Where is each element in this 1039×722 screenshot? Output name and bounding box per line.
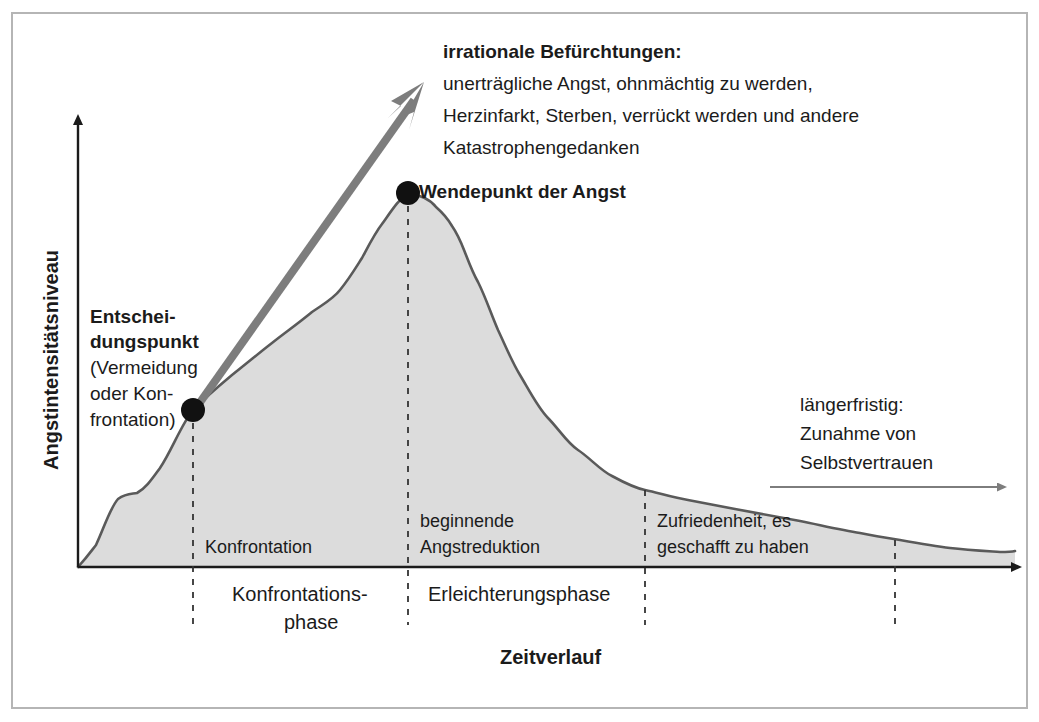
turning-point-marker [396,181,420,205]
turning-point-label: Wendepunkt der Angst [419,180,626,205]
phase-label-zufriedenheit-line-1: Zufriedenheit, es [657,510,791,533]
decision-point-marker [181,398,205,422]
phase-label-beginnende-line-2: Angstreduktion [420,536,540,559]
irrational-fears-line-1: unerträgliche Angst, ohnmächtig zu werde… [443,72,813,97]
longterm-label-line-3: Selbstvertrauen [800,451,933,476]
decision-point-line-3: (Vermeidung [90,356,198,381]
x-axis-label: Zeitverlauf [500,644,601,670]
longterm-label-line-2: Zunahme von [800,422,916,447]
phase-name-konfrontationsphase-line-2: phase [284,609,339,635]
decision-point-line-4: oder Kon- [90,382,173,407]
phase-name-konfrontationsphase-line-1: Konfrontations- [232,581,368,607]
phase-label-beginnende-line-1: beginnende [420,510,514,533]
irrational-fears-line-2: Herzinfarkt, Sterben, verrückt werden un… [443,104,859,129]
longterm-label-line-1: längerfristig: [800,393,904,418]
decision-point-line-2: dungspunkt [90,330,199,355]
phase-name-erleichterungsphase: Erleichterungsphase [428,581,610,607]
y-axis-label: Angstintensitätsniveau [40,250,63,470]
irrational-fears-title: irrationale Befürchtungen: [443,40,682,65]
decision-point-line-5: frontation) [90,408,176,433]
decision-point-line-1: Entschei- [90,305,176,330]
phase-label-zufriedenheit-line-2: geschafft zu haben [657,536,809,559]
irrational-fears-line-3: Katastrophengedanken [443,136,640,161]
phase-label-konfrontation: Konfrontation [205,536,312,559]
figure-canvas: Angstintensitätsniveau Zeitverlauf irrat… [0,0,1039,722]
